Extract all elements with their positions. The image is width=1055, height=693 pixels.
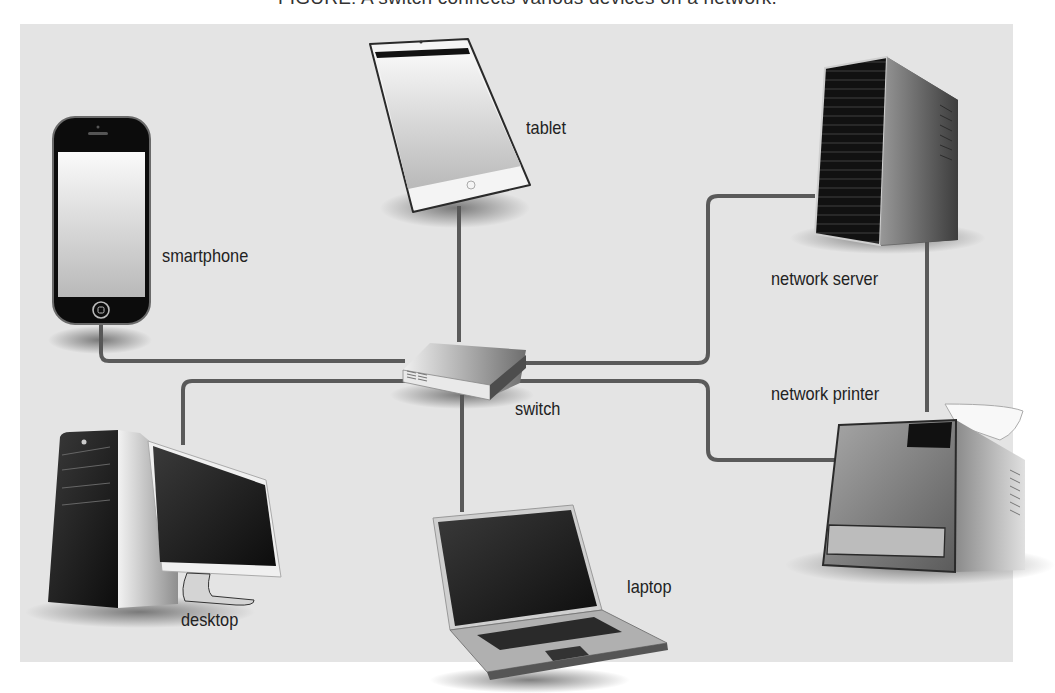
laptop-icon <box>430 505 668 693</box>
server-icon <box>790 57 986 254</box>
cable-desktop-switch <box>183 381 405 445</box>
label-network-server: network server <box>771 268 878 290</box>
label-laptop: laptop <box>627 576 672 598</box>
label-network-printer: network printer <box>771 383 879 405</box>
tablet-icon <box>370 39 530 228</box>
label-smartphone: smartphone <box>162 245 248 267</box>
printer-icon <box>785 404 1055 585</box>
label-tablet: tablet <box>526 117 566 139</box>
switch-icon <box>390 343 534 409</box>
network-diagram <box>0 0 1055 693</box>
desktop-computer-icon <box>25 430 281 628</box>
label-desktop: desktop <box>181 609 238 631</box>
label-switch: switch <box>515 398 560 420</box>
smartphone-icon <box>48 117 152 354</box>
